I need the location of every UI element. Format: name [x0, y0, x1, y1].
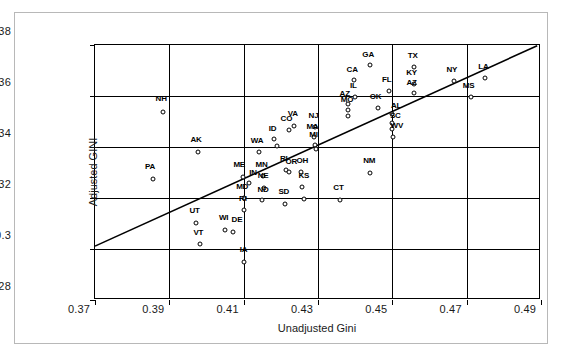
y-tick-label: 0.3 [0, 229, 11, 241]
scatter-plot-figure: NHPAAKUTVTWIDEMEINMDRIIAWAMNNENDIDCOVARI… [0, 0, 562, 358]
x-tick-label: 0.47 [440, 303, 462, 315]
y-tick-mark [90, 300, 95, 301]
x-tick-label: 0.49 [514, 303, 536, 315]
y-tick-label: 0.32 [0, 178, 11, 190]
y-axis-title: Adjusted GINI [87, 137, 99, 205]
y-tick-label: 0.38 [0, 25, 11, 37]
x-tick-mark [244, 300, 245, 305]
x-tick-mark [392, 300, 393, 305]
x-tick-label: 0.45 [365, 303, 387, 315]
x-tick-label: 0.41 [217, 303, 239, 315]
x-tick-mark [169, 300, 170, 305]
x-tick-mark [541, 300, 542, 305]
y-tick-label: 0.36 [0, 76, 11, 88]
figure-frame: NHPAAKUTVTWIDEMEINMDRIIAWAMNNENDIDCOVARI… [14, 12, 548, 344]
x-tick-mark [95, 300, 96, 305]
x-tick-mark [318, 300, 319, 305]
x-tick-label: 0.43 [291, 303, 313, 315]
x-tick-mark [467, 300, 468, 305]
x-tick-label: 0.39 [142, 303, 164, 315]
x-tick-label: 0.37 [68, 303, 90, 315]
x-axis-title: Unadjusted Gini [94, 322, 540, 334]
reference-line [95, 45, 539, 298]
y-tick-label: 0.34 [0, 127, 11, 139]
y-tick-label: 0.28 [0, 280, 11, 292]
plot-area: NHPAAKUTVTWIDEMEINMDRIIAWAMNNENDIDCOVARI… [94, 44, 540, 299]
